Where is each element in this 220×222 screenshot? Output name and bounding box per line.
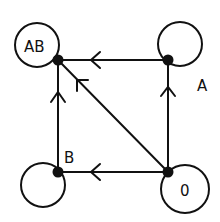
node-A (163, 55, 174, 66)
label-A: A (197, 77, 208, 95)
state-transition-diagram: AB A B 0 (0, 0, 220, 222)
node-O (163, 167, 174, 178)
node-B (53, 167, 64, 178)
node-AB (53, 55, 64, 66)
label-O: 0 (180, 182, 190, 200)
label-AB: AB (24, 38, 45, 56)
label-B: B (64, 149, 74, 167)
edge-O-to-AB (58, 60, 168, 172)
